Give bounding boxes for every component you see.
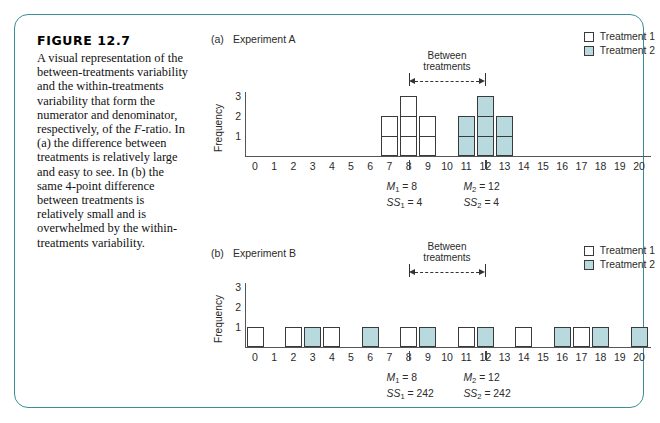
histogram-cell-divider xyxy=(477,136,494,137)
x-tick-label: 19 xyxy=(611,160,629,172)
x-tick-label: 1 xyxy=(265,160,283,172)
x-tick-label: 3 xyxy=(304,160,322,172)
histogram-cell-divider xyxy=(458,136,475,137)
between-treatments-arrow-a xyxy=(381,73,514,86)
legend-item-treatment-1: Treatment 1 xyxy=(584,245,655,256)
between-treatments-arrow-b xyxy=(381,264,514,277)
figure-label: FIGURE 12.7 xyxy=(37,33,189,48)
treatment-statistics: M2 = 12SS2 = 242 xyxy=(463,372,510,403)
legend-label-treatment-2: Treatment 2 xyxy=(600,45,655,56)
histogram-bar xyxy=(362,327,379,347)
legend-label-treatment-2: Treatment 2 xyxy=(600,259,655,270)
legend-item-treatment-1: Treatment 1 xyxy=(584,31,655,42)
between-label-line2: treatments xyxy=(381,252,514,263)
x-tick-label: 6 xyxy=(361,160,379,172)
between-treatments-annotation-b: Between treatments xyxy=(381,241,514,277)
histogram-bar xyxy=(554,327,571,347)
sum-of-squares-statistic: SS2 = 242 xyxy=(463,388,510,404)
y-tick-label: 2 xyxy=(229,301,241,313)
x-tick-label: 2 xyxy=(284,351,302,363)
x-tick-label: 14 xyxy=(515,160,533,172)
panel-experiment-a: (a)Experiment A Treatment 1 Treatment 2 … xyxy=(211,29,659,234)
panel-a-title: Experiment A xyxy=(233,33,295,45)
histogram-bar xyxy=(592,327,609,347)
x-tick-label: 7 xyxy=(380,351,398,363)
figure-card: FIGURE 12.7 A visual representation of t… xyxy=(14,14,644,408)
histogram-bar xyxy=(631,327,648,347)
panel-b-letter: (b) xyxy=(211,247,233,259)
histogram-bar xyxy=(400,327,417,347)
y-tick-label: 1 xyxy=(229,321,241,333)
legend-panel-a: Treatment 1 Treatment 2 xyxy=(584,31,655,59)
x-tick-label: 16 xyxy=(553,351,571,363)
x-tick-label: 7 xyxy=(380,160,398,172)
figure-caption-text: A visual representation of the between-t… xyxy=(37,51,189,250)
histogram-cell-divider xyxy=(477,116,494,117)
histogram-bar xyxy=(458,327,475,347)
y-tick-label: 3 xyxy=(229,281,241,293)
treatment-statistics: M2 = 12SS2 = 4 xyxy=(463,181,499,212)
legend-item-treatment-2: Treatment 2 xyxy=(584,45,655,56)
histogram-bar xyxy=(515,327,532,347)
x-tick-label: 1 xyxy=(265,351,283,363)
histogram-bar xyxy=(304,327,321,347)
panel-b-header: (b)Experiment B xyxy=(211,247,296,259)
y-tick-label: 2 xyxy=(229,110,241,122)
x-tick-label: 4 xyxy=(323,351,341,363)
x-tick-label: 3 xyxy=(304,351,322,363)
x-tick-label: 20 xyxy=(630,351,648,363)
legend-swatch-white-square xyxy=(584,246,594,256)
legend-label-treatment-1: Treatment 1 xyxy=(600,31,655,42)
between-label-line1: Between xyxy=(381,50,514,61)
x-tick-label: 16 xyxy=(553,160,571,172)
x-tick-label: 10 xyxy=(438,160,456,172)
treatment-statistics: M1 = 8SS1 = 242 xyxy=(387,372,434,403)
x-tick-label: 5 xyxy=(342,351,360,363)
mean-marker-tick xyxy=(485,160,486,169)
y-axis-label: Frequency xyxy=(213,295,224,343)
panel-a-letter: (a) xyxy=(211,33,233,45)
x-tick-label: 13 xyxy=(496,160,514,172)
x-tick-label: 18 xyxy=(592,351,610,363)
mean-marker-tick xyxy=(409,351,410,360)
figure-caption: FIGURE 12.7 A visual representation of t… xyxy=(37,33,189,250)
x-tick-label: 10 xyxy=(438,351,456,363)
x-tick-label: 11 xyxy=(457,351,475,363)
x-tick-label: 5 xyxy=(342,160,360,172)
y-tick-label: 1 xyxy=(229,130,241,142)
sum-of-squares-statistic: SS1 = 4 xyxy=(387,197,423,213)
histogram-bar xyxy=(400,96,417,156)
mean-statistic: M2 = 12 xyxy=(463,372,510,388)
x-tick-label: 17 xyxy=(572,351,590,363)
mean-statistic: M2 = 12 xyxy=(463,181,499,197)
sum-of-squares-statistic: SS2 = 4 xyxy=(463,197,499,213)
between-label-line1: Between xyxy=(381,241,514,252)
mean-statistic: M1 = 8 xyxy=(387,372,434,388)
x-tick-label: 13 xyxy=(496,351,514,363)
x-axis-line xyxy=(245,347,651,348)
legend-panel-b: Treatment 1 Treatment 2 xyxy=(584,245,655,273)
legend-item-treatment-2: Treatment 2 xyxy=(584,259,655,270)
x-tick-label: 9 xyxy=(419,160,437,172)
mean-marker-tick xyxy=(485,351,486,360)
panel-b-title: Experiment B xyxy=(233,247,296,259)
x-tick-label: 15 xyxy=(534,351,552,363)
x-tick-label: 0 xyxy=(246,351,264,363)
treatment-statistics: M1 = 8SS1 = 4 xyxy=(387,181,423,212)
histogram-cell-divider xyxy=(496,136,513,137)
y-axis-line xyxy=(245,92,246,156)
x-tick-label: 11 xyxy=(457,160,475,172)
x-tick-label: 2 xyxy=(284,160,302,172)
sum-of-squares-statistic: SS1 = 242 xyxy=(387,388,434,404)
histogram-bar xyxy=(247,327,264,347)
histogram-bar xyxy=(323,327,340,347)
between-label-line2: treatments xyxy=(381,61,514,72)
x-tick-label: 4 xyxy=(323,160,341,172)
histogram-bar xyxy=(573,327,590,347)
y-axis-label: Frequency xyxy=(213,104,224,152)
histogram-bar xyxy=(285,327,302,347)
x-axis-line xyxy=(245,156,651,157)
x-tick-label: 6 xyxy=(361,351,379,363)
panel-experiment-b: (b)Experiment B Treatment 1 Treatment 2 … xyxy=(211,243,659,418)
histogram-cell-divider xyxy=(400,116,417,117)
